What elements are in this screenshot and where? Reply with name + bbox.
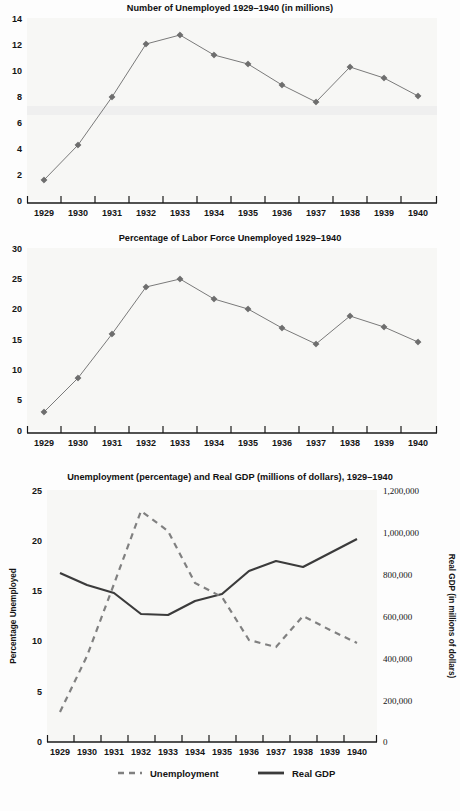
chart2-ytick-20: 20 [12, 304, 22, 314]
chart3-xlabel-1938: 1938 [293, 747, 313, 757]
chart3-plot-area [47, 490, 377, 742]
chart3-xlabel-1939: 1939 [320, 747, 340, 757]
chart3-xlabel-1935: 1935 [212, 747, 232, 757]
chart1-xlabel-1934: 1934 [204, 208, 224, 218]
chart1-xlabel-1931: 1931 [102, 208, 122, 218]
chart1-ytick-12: 12 [12, 40, 22, 50]
chart1-xlabel-1936: 1936 [272, 208, 292, 218]
chart3-xlabel-1936: 1936 [239, 747, 259, 757]
chart1-xlabel-1930: 1930 [68, 208, 88, 218]
chart1-xlabel-1929: 1929 [34, 208, 54, 218]
chart3-xlabel-1931: 1931 [104, 747, 124, 757]
chart3-ytick-20: 20 [32, 536, 42, 546]
chart1-ytick-0: 0 [17, 196, 22, 206]
chart1-svg: Number of Unemployed 1929–1940 (in milli… [0, 0, 460, 230]
chart2-ytick-15: 15 [12, 335, 22, 345]
chart2-xlabel-1939: 1939 [374, 438, 394, 448]
chart1-ytick-10: 10 [12, 66, 22, 76]
chart2-title: Percentage of Labor Force Unemployed 192… [119, 233, 342, 243]
legend-label-real-gdp: Real GDP [292, 768, 336, 779]
chart3-xlabel-1930: 1930 [77, 747, 97, 757]
chart3-y2tick-0: 0 [383, 737, 388, 747]
legend-label-unemployment: Unemployment [150, 768, 219, 779]
chart1-ytick-4: 4 [17, 144, 22, 154]
chart1-xlabel-1933: 1933 [170, 208, 190, 218]
chart1-xlabel-1940: 1940 [408, 208, 428, 218]
chart2-xlabel-1937: 1937 [306, 438, 326, 448]
chart3-ytick-15: 15 [32, 586, 42, 596]
chart3-y2tick-400000: 400,000 [383, 654, 413, 664]
chart3-xlabel-1932: 1932 [131, 747, 151, 757]
chart3-ytick-0: 0 [37, 737, 42, 747]
chart1-ytick-8: 8 [17, 92, 22, 102]
chart3-y2tick-1200000: 1,200,000 [383, 486, 420, 496]
chart3-xlabel-1940: 1940 [347, 747, 367, 757]
chart2-ytick-5: 5 [17, 395, 22, 405]
chart2-xlabel-1936: 1936 [272, 438, 292, 448]
chart3-xlabel-1934: 1934 [185, 747, 205, 757]
chart1-xlabel-1939: 1939 [374, 208, 394, 218]
chart3-y2tick-600000: 600,000 [383, 612, 413, 622]
chart2-xlabel-1930: 1930 [68, 438, 88, 448]
chart3-ytick-10: 10 [32, 636, 42, 646]
chart3-svg: Unemployment (percentage) and Real GDP (… [0, 460, 460, 811]
chart3-xlabel-1933: 1933 [158, 747, 178, 757]
chart3-y2tick-1000000: 1,000,000 [383, 528, 420, 538]
chart2-ytick-10: 10 [12, 365, 22, 375]
chart2-xlabel-1929: 1929 [34, 438, 54, 448]
chart-number-of-unemployed: Number of Unemployed 1929–1940 (in milli… [0, 0, 460, 230]
chart1-xlabel-1932: 1932 [136, 208, 156, 218]
chart2-xlabel-1938: 1938 [340, 438, 360, 448]
chart2-xlabel-1932: 1932 [136, 438, 156, 448]
chart2-ytick-25: 25 [12, 274, 22, 284]
chart1-paper-smudge [27, 106, 437, 115]
chart2-ytick-30: 30 [12, 244, 22, 254]
chart3-xlabel-1937: 1937 [266, 747, 286, 757]
chart2-xlabel-1933: 1933 [170, 438, 190, 448]
chart2-plot-area [27, 248, 437, 430]
chart1-title: Number of Unemployed 1929–1940 (in milli… [127, 3, 333, 13]
chart1-xlabel-1935: 1935 [238, 208, 258, 218]
chart2-svg: Percentage of Labor Force Unemployed 192… [0, 230, 460, 460]
chart3-y2tick-200000: 200,000 [383, 696, 413, 706]
chart3-ytick-5: 5 [37, 687, 42, 697]
figure-page: Number of Unemployed 1929–1940 (in milli… [0, 0, 460, 811]
chart2-xlabel-1934: 1934 [204, 438, 224, 448]
chart1-ytick-2: 2 [17, 170, 22, 180]
chart2-xlabel-1931: 1931 [102, 438, 122, 448]
chart1-xlabel-1938: 1938 [340, 208, 360, 218]
chart3-xlabel-1929: 1929 [50, 747, 70, 757]
chart1-ytick-6: 6 [17, 118, 22, 128]
chart-unemployment-and-real-gdp: Unemployment (percentage) and Real GDP (… [0, 460, 460, 811]
chart3-y2tick-800000: 800,000 [383, 570, 413, 580]
chart3-right-axis-title: Real GDP (in millions of dollars) [447, 554, 456, 679]
chart3-left-axis-title: Percentage Unemployed [9, 568, 18, 664]
chart2-xlabel-1935: 1935 [238, 438, 258, 448]
chart-percentage-labor-force-unemployed: Percentage of Labor Force Unemployed 192… [0, 230, 460, 460]
chart2-ytick-0: 0 [17, 426, 22, 436]
chart1-ytick-14: 14 [12, 14, 22, 24]
chart2-xlabel-1940: 1940 [408, 438, 428, 448]
chart1-xlabel-1937: 1937 [306, 208, 326, 218]
chart3-title: Unemployment (percentage) and Real GDP (… [67, 472, 393, 482]
chart3-ytick-25: 25 [32, 486, 42, 496]
